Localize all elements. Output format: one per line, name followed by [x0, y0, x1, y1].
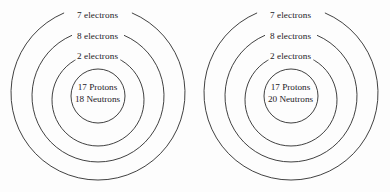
electron-shell-3-label: 7 electrons [75, 11, 120, 20]
nucleus-protons-label: 17 Protons [268, 82, 313, 94]
nucleus-neutrons-label: 18 Neutrons [75, 94, 120, 106]
electron-shell-2-label: 8 electrons [75, 32, 120, 41]
bohr-model-figure: 7 electrons 8 electrons 2 electrons 17 P… [0, 0, 390, 192]
electron-shell-1-label: 2 electrons [268, 52, 313, 61]
atom-diagram-right: 7 electrons 8 electrons 2 electrons 17 P… [193, 0, 388, 192]
atom-diagram-left: 7 electrons 8 electrons 2 electrons 17 P… [0, 0, 195, 192]
electron-shell-1-label: 2 electrons [75, 52, 120, 61]
electron-shell-3-label: 7 electrons [268, 11, 313, 20]
electron-shell-2-label: 8 electrons [268, 32, 313, 41]
nucleus-protons-label: 17 Protons [75, 82, 120, 94]
nucleus-composition: 17 Protons 20 Neutrons [268, 82, 313, 105]
nucleus-composition: 17 Protons 18 Neutrons [75, 82, 120, 105]
nucleus-neutrons-label: 20 Neutrons [268, 94, 313, 106]
